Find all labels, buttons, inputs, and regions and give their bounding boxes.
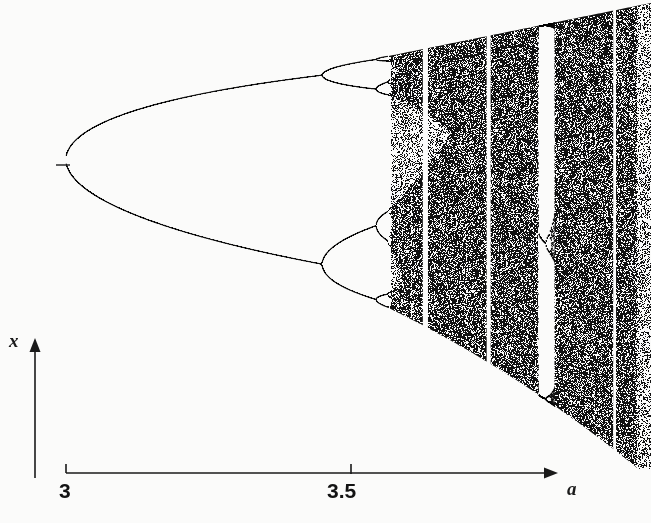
- x-tick-label-3: 3: [59, 479, 71, 503]
- bifurcation-diagram-canvas: [0, 0, 651, 523]
- y-axis-label: x: [9, 330, 19, 352]
- x-axis-label: a: [567, 478, 577, 500]
- x-tick-label-3point5: 3.5: [327, 479, 356, 503]
